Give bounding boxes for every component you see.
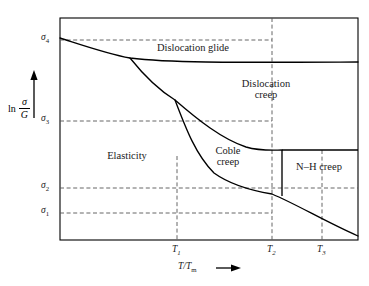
region-label-nh-creep: N–H creep: [296, 161, 342, 172]
y-axis-arrow: [30, 70, 37, 118]
y-tick-label-sigma1: σ1: [41, 206, 49, 217]
y-tick-sigma4-sub: 4: [46, 37, 49, 44]
y-axis-label-denominator: G: [19, 109, 30, 121]
y-axis-label-fraction: σ G: [19, 96, 30, 120]
region-dislocation-glide-line1: Dislocation glide: [157, 42, 229, 53]
y-axis-label-numerator: σ: [19, 96, 30, 109]
boundary-dislocation-diffusional: [130, 58, 282, 150]
region-elasticity-line1: Elasticity: [107, 150, 147, 161]
x-axis-arrow: [216, 265, 241, 272]
x-tick-T1-sub: 1: [177, 249, 180, 256]
y-tick-sigma1-sub: 1: [46, 210, 49, 217]
y-axis-label-prefix: ln: [8, 103, 16, 114]
y-axis-label: ln σ G: [8, 96, 30, 120]
y-tick-label-sigma2: σ2: [41, 181, 49, 192]
region-nh-creep-line1: N–H creep: [296, 161, 342, 172]
x-tick-T3-sub: 3: [322, 249, 325, 256]
x-axis-title-text: T/T: [178, 261, 191, 271]
x-axis-title: T/Tm: [178, 262, 197, 273]
region-coble-creep-line2: creep: [215, 156, 240, 167]
x-axis-title-sub: m: [191, 266, 196, 273]
region-label-elasticity: Elasticity: [107, 150, 147, 161]
region-label-dislocation-glide: Dislocation glide: [157, 42, 229, 53]
region-dislocation-creep-line2: creep: [242, 89, 290, 100]
region-coble-creep-line1: Coble: [215, 145, 240, 156]
x-tick-label-T1: T1: [172, 245, 181, 256]
region-label-coble-creep: Coble creep: [215, 145, 240, 167]
y-tick-label-sigma4: σ4: [41, 33, 49, 44]
x-tick-label-T3: T3: [317, 245, 326, 256]
x-tick-T2-sub: 2: [272, 249, 275, 256]
region-dislocation-creep-line1: Dislocation: [242, 78, 290, 89]
deformation-mechanism-map: ln σ G σ4 σ3 σ2 σ1 T1 T2 T3 T/Tm Disloca…: [0, 0, 369, 286]
y-tick-sigma2-sub: 2: [46, 185, 49, 192]
y-tick-label-sigma3: σ3: [41, 114, 49, 125]
x-tick-label-T2: T2: [267, 245, 276, 256]
y-tick-sigma3-sub: 3: [46, 118, 49, 125]
region-label-dislocation-creep: Dislocation creep: [242, 78, 290, 100]
